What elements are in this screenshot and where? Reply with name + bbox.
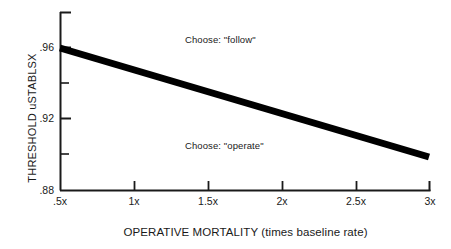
x-tick-label-3x: 3x [410,196,450,207]
x-tick-label-1-5x: 1.5x [188,196,228,207]
x-tick-label-2x: 2x [262,196,302,207]
y-tick-label-96: .96 [28,42,54,53]
y-tick-label-88: .88 [28,185,54,196]
x-tick-label-1x: 1x [114,196,154,207]
annotation-choose-operate: Choose: "operate" [185,140,264,151]
y-tick-label-92: .92 [28,113,54,124]
x-tick-label-0-5x: .5x [40,196,80,207]
annotation-choose-follow: Choose: "follow" [185,34,256,45]
chart-figure: THRESHOLD uSTABLSX OPERATIVE MORTALITY (… [0,0,451,249]
x-axis-title: OPERATIVE MORTALITY (times baseline rate… [60,226,431,238]
x-tick-label-2-5x: 2.5x [336,196,376,207]
